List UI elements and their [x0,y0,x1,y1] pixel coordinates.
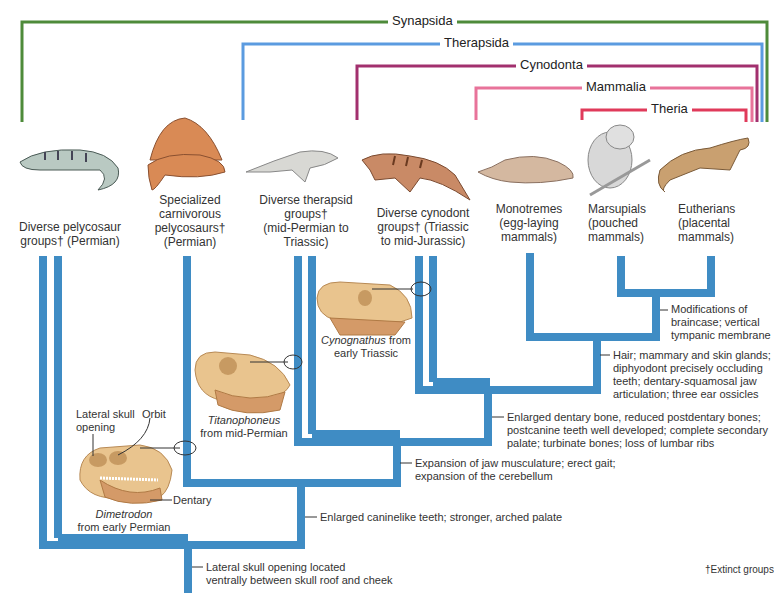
era-label: from early Permian [76,521,172,534]
taxon-monotremes: Monotremes (egg-laying mammals) [486,202,572,244]
taxon-line: groups† [252,207,360,221]
era-label: early Triassic [318,347,414,360]
clade-label-synapsida: Synapsida [388,14,457,28]
taxon-line: (pouched [588,216,658,230]
taxon-line: Triassic) [252,235,360,249]
taxon-eutherians: Eutherians (placental mammals) [678,202,748,244]
taxon-line: Monotremes [486,202,572,216]
taxon-line: Specialized [140,193,240,207]
bracket-cynodonta [357,66,757,122]
character-braincase: Modifications of braincase; vertical tym… [671,303,771,342]
taxon-pelycosaurs: Diverse pelycosaur groups† (Permian) [10,220,130,248]
skull-label-lateral-opening: Lateral skull opening [76,408,135,434]
taxon-marsupials: Marsupials (pouched mammals) [588,202,658,244]
taxon-line: (placental [678,216,748,230]
character-line: braincase; vertical [671,316,771,329]
taxon-line: mammals) [678,230,748,244]
taxon-line: carnivorous [140,207,240,221]
character-line: Lateral skull opening located [206,561,393,574]
taxon-line: to mid-Jurassic) [368,234,478,248]
taxon-line: (Permian) [140,235,240,249]
character-caninelike-teeth: Enlarged caninelike teeth; stronger, arc… [320,511,562,524]
cynodont-illustration [362,154,470,200]
clade-label-mammalia: Mammalia [582,80,650,94]
taxon-line: mammals) [486,230,572,244]
character-line: Expansion of jaw musculature; erect gait… [415,457,616,470]
label-line: Lateral skull [76,408,135,421]
ferret-illustration [658,138,749,192]
taxon-line: (egg-laying [486,216,572,230]
genus-name: Titanophoneus [198,414,290,427]
character-line: palate; turbinate bones; loss of lumbar … [507,437,768,450]
taxon-line: mammals) [588,230,658,244]
character-line: Modifications of [671,303,771,316]
taxon-line: pelycosaurs† [140,221,240,235]
character-line: tympanic membrane [671,329,771,342]
character-dentary: Enlarged dentary bone, reduced postdenta… [507,411,768,450]
character-lateral-opening: Lateral skull opening located ventrally … [206,561,393,587]
taxon-therapsids: Diverse therapsid groups† (mid-Permian t… [252,193,360,249]
taxon-line: Eutherians [678,202,748,216]
character-line: Enlarged dentary bone, reduced postdenta… [507,411,768,424]
character-line: ventrally between skull roof and cheek [206,574,393,587]
character-hair-mammary: Hair; mammary and skin glands; diphyodon… [613,349,771,401]
character-line: postcanine teeth well developed; complet… [507,424,768,437]
character-jaw-musculature: Expansion of jaw musculature; erect gait… [415,457,616,483]
taxon-line: Diverse therapsid [252,193,360,207]
titanophoneus-caption: Titanophoneus from mid-Permian [198,414,290,440]
skull-label-orbit: Orbit [142,408,166,421]
dimetrodon-illustration [148,118,225,190]
skull-label-dentary: Dentary [173,494,212,507]
taxon-line: Diverse pelycosaur [10,220,130,234]
clade-label-theria: Theria [647,102,692,116]
character-line: expansion of the cerebellum [415,470,616,483]
therapsid-illustration [246,151,338,182]
taxon-line: Diverse cynodont [368,206,478,220]
koala-illustration [588,125,650,195]
clade-label-therapsida: Therapsida [440,36,513,50]
taxon-line: groups† (Permian) [10,234,130,248]
genus-name: Cynognathus [321,334,386,346]
label-line: opening [76,421,135,434]
era-label: from mid-Permian [198,427,290,440]
cynognathus-caption: Cynognathus from early Triassic [318,334,414,360]
platypus-illustration [478,156,573,182]
dimetrodon-caption: Dimetrodon from early Permian [76,508,172,534]
character-line: diphyodont precisely occluding [613,362,771,375]
taxon-line: Marsupials [588,202,658,216]
taxon-specialized-pelycosaurs: Specialized carnivorous pelycosaurs† (Pe… [140,193,240,249]
taxon-line: groups† (Triassic [368,220,478,234]
taxon-line: (mid-Permian to [252,221,360,235]
extinct-footnote: †Extinct groups [705,563,774,576]
character-line: teeth; dentary-squamosal jaw [613,375,771,388]
cynognathus-skull [317,282,431,335]
pelycosaur-illustration [20,150,119,190]
titanophoneus-skull [195,352,302,413]
character-line: Enlarged caninelike teeth; stronger, arc… [320,511,562,524]
taxon-cynodonts: Diverse cynodont groups† (Triassic to mi… [368,206,478,248]
character-line: articulation; three ear ossicles [613,388,771,401]
character-line: Hair; mammary and skin glands; [613,349,771,362]
era-label: from [386,334,411,346]
clade-label-cynodonta: Cynodonta [516,58,587,72]
genus-name: Dimetrodon [76,508,172,521]
